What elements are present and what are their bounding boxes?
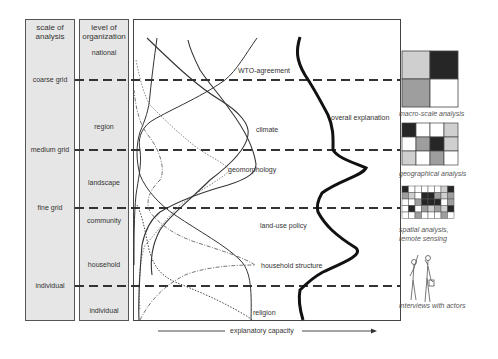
grid-cell (409, 199, 416, 206)
grid-cell (430, 137, 444, 151)
grid-cell (402, 212, 409, 219)
grid-cell (441, 212, 448, 219)
grid-cell (416, 137, 430, 151)
caption-spatial-l2: remote sensing (399, 235, 447, 242)
grid-cell (422, 199, 429, 206)
grid-cell (402, 193, 409, 200)
grid-cell (448, 193, 455, 200)
grid-cell (409, 186, 416, 193)
curve-religion (137, 205, 252, 320)
grid-cell (444, 137, 458, 151)
grid-cell (415, 193, 422, 200)
grid-cell (428, 186, 435, 193)
grid-cell (402, 123, 416, 137)
label-climate: climate (256, 126, 278, 133)
macro-scale-grid-icon (402, 51, 458, 107)
grid-cell (428, 212, 435, 219)
grid-cell (441, 193, 448, 200)
label-overall-explanation: overall explanation (331, 114, 389, 121)
grid-cell (441, 206, 448, 213)
grid-cell (402, 137, 416, 151)
grid-cell (416, 151, 430, 165)
grid-cell (422, 212, 429, 219)
grid-cell (430, 151, 444, 165)
x-axis-label: explanatory capacity (230, 327, 294, 334)
grid-cell (402, 151, 416, 165)
caption-spatial-l1: spatial analysis, (399, 226, 448, 233)
spatial-fine-grid-icon (402, 186, 454, 219)
grid-cell (416, 123, 430, 137)
caption-geographical: geographical analysis (399, 170, 466, 177)
grid-cell (448, 206, 455, 213)
grid-cell (428, 193, 435, 200)
caption-interviews: interviews with actors (399, 302, 466, 309)
grid-cell (415, 186, 422, 193)
grid-cell (402, 206, 409, 213)
grid-cell (435, 212, 442, 219)
label-religion: religion (253, 309, 276, 316)
grid-cell (415, 199, 422, 206)
grid-cell (441, 186, 448, 193)
grid-cell (448, 186, 455, 193)
grid-cell (448, 212, 455, 219)
grid-cell (402, 199, 409, 206)
label-land-use-policy: land-use policy (260, 222, 307, 229)
grid-cell (409, 206, 416, 213)
geographical-grid-icon (402, 123, 458, 165)
grid-cell (428, 206, 435, 213)
x-axis-arrowhead (371, 329, 377, 334)
grid-cell (435, 199, 442, 206)
label-wto-agreement: WTO-agreement (238, 67, 290, 74)
caption-macro-scale: macro-scale analysis (399, 110, 464, 117)
grid-cell (409, 212, 416, 219)
grid-cell (441, 199, 448, 206)
grid-cell (444, 123, 458, 137)
curve-climate (147, 38, 248, 275)
grid-cell (409, 193, 416, 200)
grid-cell (448, 199, 455, 206)
grid-cell (444, 151, 458, 165)
grid-cell (422, 206, 429, 213)
grid-cell (402, 186, 409, 193)
curve-land-use-policy (139, 40, 256, 320)
grid-cell (415, 212, 422, 219)
people-icon (410, 255, 434, 302)
grid-cell (435, 186, 442, 193)
grid-cell (422, 193, 429, 200)
grid-cell (428, 199, 435, 206)
label-geomorphology: geomorphology (228, 166, 276, 173)
grid-cell (422, 186, 429, 193)
grid-cell (435, 206, 442, 213)
label-household-structure: household structure (261, 262, 322, 269)
grid-cell (430, 123, 444, 137)
grid-cell (435, 193, 442, 200)
grid-cell (415, 206, 422, 213)
